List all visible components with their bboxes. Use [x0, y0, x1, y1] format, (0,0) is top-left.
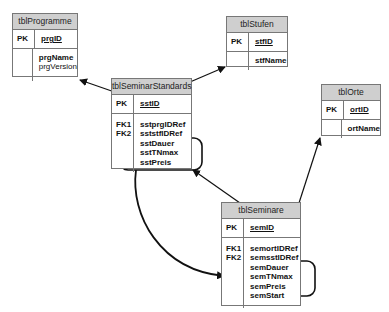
field: sstTNmax — [140, 148, 191, 158]
relation-seminare-orte — [299, 138, 320, 203]
field: semStart — [250, 291, 300, 301]
table-programme[interactable]: tblProgramme PK prgID prgName prgVersion — [12, 13, 78, 77]
pk-field: sstID — [140, 99, 191, 109]
relation-standards-stufen — [190, 67, 225, 82]
fields-row: stfName — [227, 52, 287, 70]
fields-row: prgName prgVersion — [13, 49, 77, 81]
fk-label: FK2 — [226, 253, 243, 263]
field: semDauer — [250, 263, 300, 273]
key-column — [322, 120, 342, 138]
key-column — [227, 52, 249, 70]
fields-row: FK1 FK2 semortIDRef semsstIDRef semDauer… — [222, 238, 300, 308]
pk-label: PK — [112, 95, 134, 113]
field: semTNmax — [250, 272, 300, 282]
table-title: tblOrte — [322, 85, 380, 101]
fk-label: FK1 — [226, 244, 243, 254]
key-column: FK1 FK2 — [112, 114, 134, 172]
fk-label: FK1 — [116, 120, 133, 130]
pk-label: PK — [322, 101, 344, 119]
table-title: tblSeminare — [222, 203, 300, 219]
pk-row: PK stfID — [227, 33, 287, 52]
pk-label: PK — [13, 30, 35, 48]
pk-row: PK semID — [222, 219, 300, 238]
field: semsstIDRef — [250, 253, 300, 263]
field: sstprgIDRef — [140, 120, 191, 130]
key-column: FK1 FK2 — [222, 238, 244, 308]
field: stfName — [255, 56, 287, 66]
table-orte[interactable]: tblOrte PK ortID ortName — [321, 84, 381, 136]
fields-row: ortName — [322, 120, 380, 138]
pk-label: PK — [227, 33, 249, 51]
field: prgVersion — [39, 62, 77, 72]
key-column — [13, 49, 33, 81]
fields-row: FK1 FK2 sstprgIDRef sststfIDRef sstDauer… — [112, 114, 191, 172]
table-title: tblSeminarStandards — [112, 79, 191, 95]
field: semPreis — [250, 282, 300, 292]
pk-row: PK prgID — [13, 30, 77, 49]
field: ortName — [348, 124, 380, 134]
pk-row: PK ortID — [322, 101, 380, 120]
copy-arrow — [135, 170, 224, 276]
pk-field: prgID — [41, 34, 77, 44]
pk-field: stfID — [255, 37, 287, 47]
pk-row: PK sstID — [112, 95, 191, 114]
pk-field: semID — [250, 223, 300, 233]
relation-seminare-standards — [193, 170, 240, 203]
pk-field: ortID — [350, 105, 380, 115]
table-seminare[interactable]: tblSeminare PK semID FK1 FK2 semortIDRef… — [221, 202, 301, 306]
field: semortIDRef — [250, 244, 300, 254]
field: prgName — [39, 53, 77, 63]
field: sstDauer — [140, 139, 191, 149]
table-stufen[interactable]: tblStufen PK stfID stfName — [226, 16, 288, 67]
fk-label: FK2 — [116, 129, 133, 139]
table-seminar-standards[interactable]: tblSeminarStandards PK sstID FK1 FK2 sst… — [111, 78, 192, 169]
field: sststfIDRef — [140, 129, 191, 139]
table-title: tblStufen — [227, 17, 287, 33]
pk-label: PK — [222, 219, 244, 237]
field: sstPreis — [140, 158, 191, 168]
table-title: tblProgramme — [13, 14, 77, 30]
